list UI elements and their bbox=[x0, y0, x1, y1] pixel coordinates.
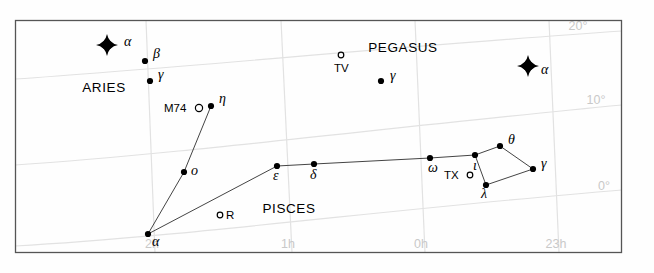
constellation-name-aries: ARIES bbox=[82, 80, 126, 95]
dec-tick-label-1: 10° bbox=[587, 93, 606, 107]
star-glyph bbox=[147, 78, 153, 84]
star-label-bet-ari: β bbox=[152, 46, 160, 61]
star-label-omi-psc: o bbox=[191, 163, 198, 178]
star-label-iot-psc: ι bbox=[473, 158, 477, 173]
ra-tick-label-0h: 0h bbox=[414, 237, 428, 251]
ra-tick-label-1h: 1h bbox=[281, 237, 295, 251]
star-glyph bbox=[497, 143, 503, 149]
star-core bbox=[523, 61, 533, 71]
star-label-alp-ari: α bbox=[124, 34, 132, 49]
star-label-gam-ari: γ bbox=[158, 67, 164, 82]
object-label-r-psc: R bbox=[226, 209, 234, 221]
star-label-alp-and: α bbox=[541, 62, 549, 77]
dec-tick-label-2: 0° bbox=[598, 179, 610, 193]
constellation-name-pisces: PISCES bbox=[262, 201, 315, 216]
object-label-tv-psc: TV bbox=[334, 62, 349, 74]
star-chart: 2h1h0h23h20°10°0°αβγηoαεδωιθγλγαM74RTVTX… bbox=[0, 0, 654, 273]
ra-tick-label-23h: 23h bbox=[546, 237, 567, 251]
star-glyph bbox=[208, 103, 214, 109]
star-glyph bbox=[378, 78, 384, 84]
chart-background bbox=[0, 0, 654, 273]
star-label-ome-psc: ω bbox=[428, 160, 438, 175]
star-label-gam-peg: γ bbox=[390, 68, 396, 83]
star-label-lam-psc: λ bbox=[480, 186, 487, 201]
star-glyph bbox=[530, 166, 536, 172]
star-glyph bbox=[181, 169, 187, 175]
star-glyph bbox=[145, 231, 151, 237]
object-label-tx-psc: TX bbox=[444, 169, 459, 181]
star-glyph bbox=[142, 58, 148, 64]
star-label-eps-psc: ε bbox=[273, 168, 279, 183]
star-label-del-psc: δ bbox=[310, 167, 317, 182]
object-label-m74: M74 bbox=[164, 102, 187, 114]
star-core bbox=[102, 40, 112, 50]
star-chart-canvas: 2h1h0h23h20°10°0°αβγηoαεδωιθγλγαM74RTVTX… bbox=[0, 0, 654, 273]
star-label-alp-psc: α bbox=[152, 234, 160, 249]
star-label-the-psc: θ bbox=[508, 132, 515, 147]
star-label-gam-psc: γ bbox=[541, 156, 547, 171]
constellation-name-pegasus: PEGASUS bbox=[368, 40, 437, 55]
star-del-psc[interactable]: δ bbox=[310, 161, 317, 182]
star-label-eta-psc: η bbox=[219, 91, 226, 106]
